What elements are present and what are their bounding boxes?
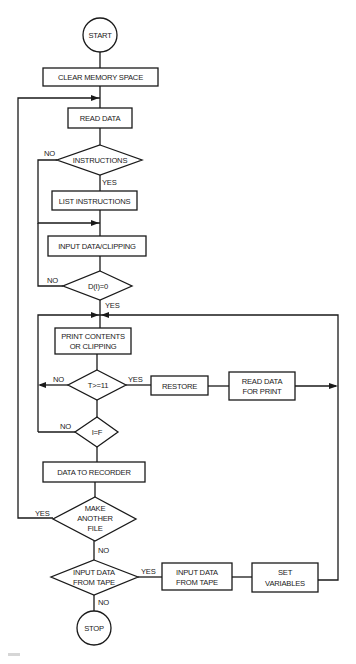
make-another-file-yes-label: YES	[35, 509, 50, 518]
input-from-tape-decision-label-line1: INPUT DATA	[73, 568, 116, 577]
d-i-zero-no-label: NO	[47, 276, 58, 285]
input-data-clipping-label: INPUT DATA/CLIPPING	[58, 242, 136, 251]
read-data-for-print-label-line2: FOR PRINT	[242, 387, 282, 396]
read-data-label: READ DATA	[80, 114, 122, 123]
set-variables-label-line1: SET	[278, 568, 293, 577]
flowchart-canvas: START CLEAR MEMORY SPACE READ DATA INSTR…	[0, 0, 356, 664]
input-from-tape-yes-label: YES	[141, 567, 156, 576]
t-ge-11-no-label: NO	[53, 375, 64, 384]
arrow-right-icon	[329, 383, 338, 389]
t-ge-11-yes-label: YES	[128, 375, 143, 384]
list-instructions-label: LIST INSTRUCTIONS	[59, 197, 131, 206]
arrow-right-icon	[91, 95, 99, 101]
input-from-tape-process-label-line2: FROM TAPE	[176, 578, 218, 587]
instructions-yes-label: YES	[102, 178, 117, 187]
input-from-tape-decision: INPUT DATA FROM TAPE YES NO	[51, 560, 156, 607]
read-data-process: READ DATA	[68, 108, 132, 128]
read-data-for-print-process: READ DATA FOR PRINT	[229, 372, 295, 400]
instructions-no-label: NO	[44, 149, 55, 158]
make-another-file-label-line3: FILE	[87, 524, 102, 533]
arrow-left-icon	[38, 382, 46, 388]
data-to-recorder-label: DATA TO RECORDER	[57, 468, 131, 477]
instructions-label: INSTRUCTIONS	[73, 156, 128, 165]
i-eq-f-label: I=F	[92, 428, 103, 437]
print-contents-process: PRINT CONTENTS OR CLIPPING	[55, 328, 131, 354]
d-i-zero-yes-label: YES	[105, 301, 120, 310]
make-another-file-label-line2: ANOTHER	[77, 514, 113, 523]
read-data-for-print-label-line1: READ DATA	[242, 377, 284, 386]
stop-label: STOP	[84, 624, 104, 633]
arrow-right-icon	[91, 220, 99, 226]
instructions-decision: INSTRUCTIONS NO YES	[44, 145, 142, 187]
i-eq-f-no-label: NO	[60, 422, 71, 431]
clear-memory-process: CLEAR MEMORY SPACE	[43, 68, 158, 86]
arrow-right-icon	[91, 312, 99, 318]
data-to-recorder-process: DATA TO RECORDER	[43, 462, 145, 482]
input-from-tape-process: INPUT DATA FROM TAPE	[162, 563, 232, 590]
print-contents-label-line2: OR CLIPPING	[70, 342, 117, 351]
d-i-zero-label: D(I)=0	[88, 282, 108, 291]
input-data-clipping-process: INPUT DATA/CLIPPING	[48, 236, 146, 256]
start-terminal: START	[83, 18, 117, 52]
input-from-tape-decision-label-line2: FROM TAPE	[73, 578, 115, 587]
stop-terminal: STOP	[77, 611, 111, 645]
print-contents-label-line1: PRINT CONTENTS	[61, 332, 125, 341]
start-label: START	[88, 31, 112, 40]
restore-process: RESTORE	[151, 376, 208, 395]
make-another-file-decision: MAKE ANOTHER FILE YES NO	[35, 497, 136, 555]
set-variables-label-line2: VARIABLES	[265, 579, 305, 588]
make-another-file-no-label: NO	[98, 546, 109, 555]
set-variables-process: SET VARIABLES	[252, 563, 318, 592]
clear-memory-label: CLEAR MEMORY SPACE	[58, 73, 143, 82]
list-instructions-process: LIST INSTRUCTIONS	[52, 191, 137, 210]
make-another-file-label-line1: MAKE	[85, 504, 106, 513]
scan-mark	[8, 653, 20, 656]
restore-label: RESTORE	[162, 382, 197, 391]
t-ge-11-label: T>=11	[88, 381, 108, 390]
d-i-zero-decision: D(I)=0 NO YES	[47, 271, 132, 310]
input-from-tape-process-label-line1: INPUT DATA	[176, 568, 219, 577]
input-from-tape-no-label: NO	[98, 598, 109, 607]
arrow-left-icon	[101, 312, 109, 318]
flowchart-svg: START CLEAR MEMORY SPACE READ DATA INSTR…	[0, 0, 356, 664]
